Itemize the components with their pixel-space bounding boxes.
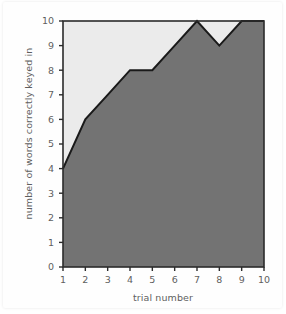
x-tick-label: 3	[105, 274, 111, 285]
x-tick-label: 9	[239, 274, 245, 285]
y-axis-tick-labels: 012345678910	[42, 15, 54, 272]
x-tick-label: 4	[127, 274, 133, 285]
y-tick-label: 4	[48, 163, 54, 174]
x-tick-label: 10	[258, 274, 270, 285]
y-tick-label: 3	[48, 188, 54, 199]
x-tick-label: 7	[194, 274, 200, 285]
y-tick-label: 6	[48, 114, 54, 125]
x-tick-label: 5	[149, 274, 155, 285]
y-tick-label: 7	[48, 89, 54, 100]
y-tick-label: 2	[48, 212, 54, 223]
y-tick-label: 9	[48, 40, 54, 51]
x-tick-label: 8	[216, 274, 222, 285]
y-tick-label: 8	[48, 65, 54, 76]
y-tick-label: 1	[48, 237, 54, 248]
x-axis-tick-labels: 12345678910	[60, 274, 270, 285]
y-axis-title: number of words correctly keyed in	[23, 24, 34, 244]
y-tick-label: 10	[42, 15, 54, 26]
y-tick-label: 5	[48, 138, 54, 149]
chart-figure: 012345678910 12345678910 number of words…	[0, 0, 286, 314]
x-tick-label: 1	[60, 274, 66, 285]
area-chart-canvas: 012345678910 12345678910	[0, 0, 286, 314]
y-tick-label: 0	[48, 261, 54, 272]
x-tick-label: 2	[82, 274, 88, 285]
x-axis-title: trial number	[60, 292, 266, 303]
x-tick-label: 6	[172, 274, 178, 285]
